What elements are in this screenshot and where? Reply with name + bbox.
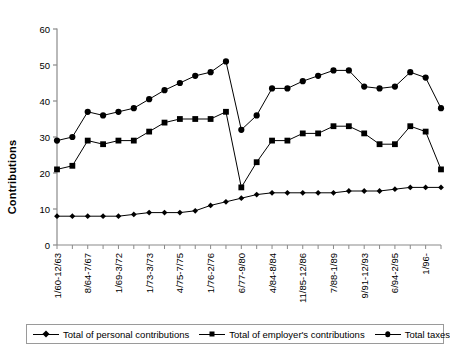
svg-text:40: 40: [39, 96, 50, 107]
svg-text:30: 30: [39, 132, 50, 143]
legend-item-employer: Total of employer's contributions: [199, 329, 364, 340]
chart-legend: Total of personal contributions Total of…: [26, 324, 444, 344]
svg-text:1/73-3/73: 1/73-3/73: [144, 253, 155, 293]
svg-text:1/96-: 1/96-: [420, 253, 431, 275]
svg-text:6/77-9/80: 6/77-9/80: [236, 253, 247, 293]
circle-marker-icon: [375, 329, 401, 339]
svg-text:7/88-1/89: 7/88-1/89: [328, 253, 339, 293]
svg-text:8/64-7/67: 8/64-7/67: [82, 253, 93, 293]
svg-text:10: 10: [39, 204, 50, 215]
svg-text:1/60-12/63: 1/60-12/63: [52, 253, 63, 298]
svg-text:50: 50: [39, 60, 50, 71]
chart-canvas: 01020304050601/60-12/638/64-7/671/69-3/7…: [0, 0, 450, 353]
svg-text:11/85-12/86: 11/85-12/86: [297, 253, 308, 303]
legend-label: Total taxes: [405, 329, 450, 340]
plot-area: 01020304050601/60-12/638/64-7/671/69-3/7…: [0, 0, 450, 353]
svg-text:20: 20: [39, 168, 50, 179]
svg-text:1/76-2/76: 1/76-2/76: [205, 253, 216, 293]
svg-text:4/75-7/75: 4/75-7/75: [174, 253, 185, 293]
legend-label: Total of employer's contributions: [229, 329, 364, 340]
chart-root: Contributions 01020304050601/60-12/638/6…: [0, 0, 450, 353]
svg-text:0: 0: [45, 240, 50, 251]
legend-item-personal: Total of personal contributions: [33, 329, 189, 340]
diamond-marker-icon: [33, 329, 59, 339]
legend-label: Total of personal contributions: [63, 329, 189, 340]
square-marker-icon: [199, 329, 225, 339]
svg-text:4/84-8/84: 4/84-8/84: [267, 253, 278, 293]
svg-text:9/91-12/93: 9/91-12/93: [359, 253, 370, 298]
svg-text:1/69-3/72: 1/69-3/72: [113, 253, 124, 293]
svg-text:6/94-2/95: 6/94-2/95: [389, 253, 400, 293]
legend-item-taxes: Total taxes: [375, 329, 450, 340]
svg-text:60: 60: [39, 24, 50, 35]
